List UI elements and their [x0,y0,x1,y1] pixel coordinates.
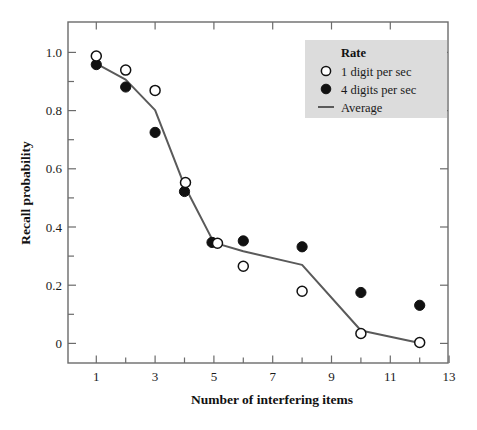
x-tick-label: 5 [211,369,218,384]
data-point [415,338,425,348]
recall-probability-scatter-chart: 1.0 0.8 0.6 0.4 0.2 0 1 3 5 7 9 11 13 Nu… [0,0,477,430]
x-tick-label: 7 [269,369,276,384]
y-tick-label: 0.8 [46,103,62,118]
y-tick-labels: 1.0 0.8 0.6 0.4 0.2 0 [46,45,63,351]
legend-open-circle-icon [321,66,330,75]
x-tick-label: 13 [443,369,456,384]
data-point [213,238,223,248]
x-tick-label: 1 [93,369,100,384]
x-tick-label: 11 [384,369,397,384]
y-tick-label: 0.2 [46,278,62,293]
x-tick-labels: 1 3 5 7 9 11 13 [93,369,456,384]
data-point [238,236,248,246]
legend-item-label[interactable]: 4 digits per sec [341,83,417,97]
data-point [150,127,160,137]
data-point [415,300,425,310]
legend-title: Rate [341,46,366,60]
data-point [297,286,307,296]
legend[interactable]: Rate 1 digit per sec 4 digits per sec Av… [305,40,447,118]
data-point [297,242,307,252]
x-tick-label: 3 [152,369,159,384]
data-point [181,178,191,188]
chart-page: 1.0 0.8 0.6 0.4 0.2 0 1 3 5 7 9 11 13 Nu… [0,0,477,430]
y-axis-title: Recall probability [18,141,33,245]
x-axis-title: Number of interfering items [191,392,353,407]
data-point [91,51,101,61]
x-tick-label: 9 [328,369,335,384]
data-point [238,261,248,271]
y-tick-label: 0 [56,336,63,351]
data-point [356,329,366,339]
legend-filled-circle-icon [321,84,331,94]
y-tick-label: 0.6 [46,161,63,176]
legend-item-label[interactable]: Average [341,101,383,115]
data-point [121,65,131,75]
y-tick-label: 1.0 [46,45,62,60]
data-point [121,82,131,92]
data-point [356,287,366,297]
y-tick-label: 0.4 [46,220,63,235]
data-point [150,85,160,95]
legend-item-label[interactable]: 1 digit per sec [341,65,412,79]
